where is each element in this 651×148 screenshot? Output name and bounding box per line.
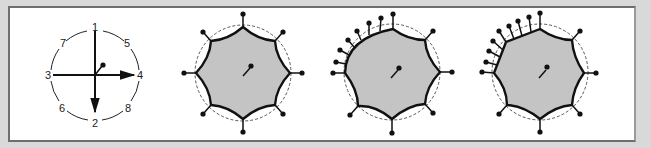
label-8: 8	[125, 102, 131, 114]
center-pin-head	[100, 62, 105, 67]
label-2: 2	[92, 117, 98, 129]
label-6: 6	[59, 102, 65, 114]
compass-panel: 1 2 3 4 5 6 7 8	[45, 21, 143, 129]
octagon-panel-4	[479, 10, 598, 134]
octagon-panel-2	[181, 11, 304, 134]
label-1: 1	[92, 21, 98, 33]
label-7: 7	[60, 37, 66, 49]
octagon-panel-3	[330, 11, 454, 135]
label-4: 4	[137, 69, 143, 81]
center-pin-head	[544, 64, 549, 69]
center-pin-head	[396, 65, 401, 70]
center-pin	[95, 66, 102, 75]
label-5: 5	[124, 37, 130, 49]
figure-canvas: 1 2 3 4 5 6 7 8	[0, 0, 651, 148]
label-3: 3	[45, 69, 51, 81]
center-pin-head	[248, 63, 253, 68]
